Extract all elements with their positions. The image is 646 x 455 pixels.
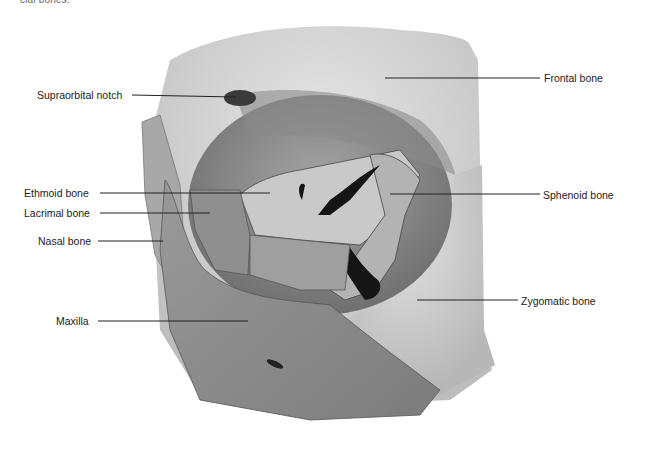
orbit-illustration — [0, 0, 646, 455]
label-nasal-bone: Nasal bone — [38, 235, 91, 247]
label-frontal-bone: Frontal bone — [544, 72, 603, 84]
label-sphenoid-bone: Sphenoid bone — [543, 189, 614, 201]
label-supraorbital-notch: Supraorbital notch — [37, 89, 122, 101]
label-maxilla: Maxilla — [56, 315, 89, 327]
label-zygomatic-bone: Zygomatic bone — [521, 295, 596, 307]
label-lacrimal-bone: Lacrimal bone — [24, 207, 90, 219]
supraorbital-notch-shape — [224, 90, 256, 106]
label-ethmoid-bone: Ethmoid bone — [24, 187, 89, 199]
